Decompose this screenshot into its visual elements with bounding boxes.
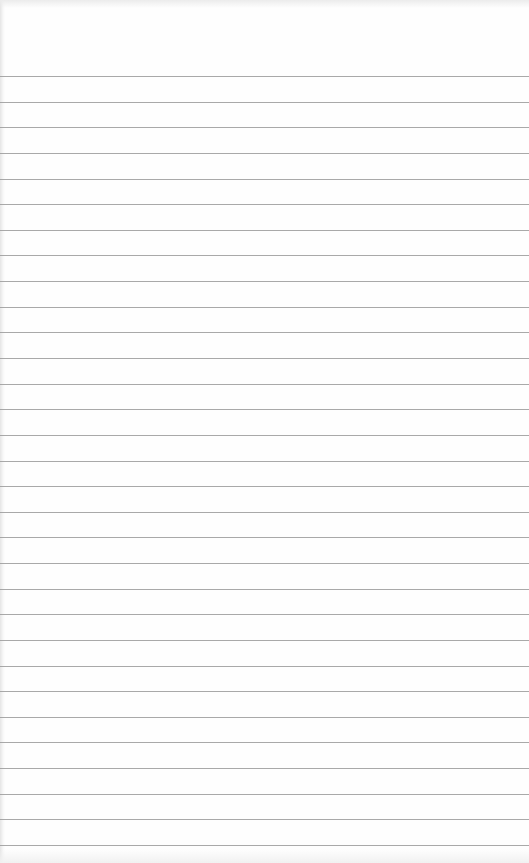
ruled-line bbox=[0, 384, 529, 385]
ruled-line bbox=[0, 589, 529, 590]
ruled-line bbox=[0, 127, 529, 128]
ruled-line bbox=[0, 486, 529, 487]
ruled-line bbox=[0, 409, 529, 410]
ruled-line bbox=[0, 717, 529, 718]
ruled-line bbox=[0, 512, 529, 513]
ruled-line bbox=[0, 255, 529, 256]
ruled-line bbox=[0, 563, 529, 564]
ruled-line bbox=[0, 435, 529, 436]
ruled-line bbox=[0, 332, 529, 333]
ruled-line bbox=[0, 768, 529, 769]
ruled-line bbox=[0, 614, 529, 615]
ruled-line bbox=[0, 461, 529, 462]
paper-top-edge bbox=[0, 0, 529, 8]
ruled-line bbox=[0, 666, 529, 667]
ruled-line bbox=[0, 76, 529, 77]
ruled-line bbox=[0, 281, 529, 282]
ruled-line bbox=[0, 691, 529, 692]
ruled-line bbox=[0, 153, 529, 154]
ruled-line bbox=[0, 307, 529, 308]
ruled-line bbox=[0, 742, 529, 743]
ruled-line bbox=[0, 358, 529, 359]
ruled-line bbox=[0, 819, 529, 820]
ruled-line bbox=[0, 179, 529, 180]
ruled-line bbox=[0, 794, 529, 795]
ruled-line bbox=[0, 102, 529, 103]
ruled-line bbox=[0, 537, 529, 538]
lined-paper-sheet bbox=[0, 0, 529, 863]
ruled-line bbox=[0, 230, 529, 231]
ruled-line bbox=[0, 845, 529, 846]
ruled-line bbox=[0, 640, 529, 641]
ruled-line bbox=[0, 204, 529, 205]
paper-bottom-edge bbox=[0, 849, 529, 863]
